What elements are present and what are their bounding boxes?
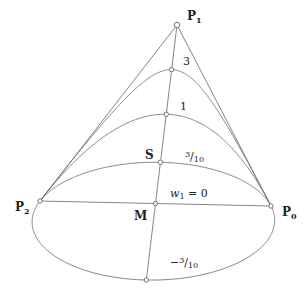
label-s: S: [145, 148, 154, 162]
label-p1: P1: [187, 9, 202, 25]
weight-label-0: w1 = 0: [170, 187, 208, 201]
label-p2: P2: [15, 200, 30, 216]
curve-w-1: [40, 114, 271, 206]
weight-label-1: 1: [180, 100, 187, 113]
marker-p1: [174, 22, 180, 28]
bezier-diagram: P1 P2 P0 M S 3 1 3/10 w1 = 0 −3/10: [0, 0, 308, 299]
label-m: M: [134, 209, 147, 223]
marker-w-−3/10: [144, 278, 148, 282]
marker-p2: [38, 199, 42, 203]
marker-w-1: [164, 112, 168, 116]
curve-family: [32, 70, 275, 280]
marker-w-3: [169, 67, 173, 71]
point-markers: [38, 22, 273, 282]
edge-p1-p2: [40, 25, 177, 201]
weight-label-3-10: 3/10: [185, 150, 204, 164]
curve-w-neg0_3: [32, 201, 275, 280]
weight-label-3: 3: [183, 55, 190, 68]
marker-p0: [269, 204, 273, 208]
curve-w-0_3: [40, 162, 271, 206]
label-p0: P0: [282, 205, 297, 221]
curve-w-3: [40, 70, 271, 206]
marker-w-3/10: [158, 160, 162, 164]
marker-m: [153, 201, 157, 205]
edge-p0-p1: [177, 25, 271, 206]
weight-label-neg-3-10: −3/10: [170, 256, 198, 270]
